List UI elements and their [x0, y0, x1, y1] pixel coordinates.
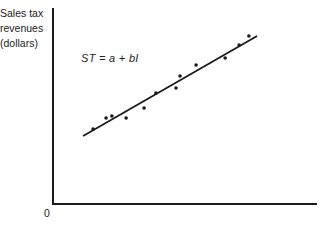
data-point: [142, 106, 146, 110]
data-point: [247, 34, 251, 38]
data-point: [154, 91, 158, 95]
data-point: [223, 56, 227, 60]
data-points: [91, 34, 250, 131]
data-point: [104, 116, 108, 120]
data-point: [110, 114, 114, 118]
data-point: [237, 43, 241, 47]
plot-area: [0, 0, 322, 228]
data-point: [91, 127, 95, 131]
data-point: [194, 63, 198, 67]
regression-line-segment: [83, 36, 257, 136]
data-point: [124, 116, 128, 120]
data-point: [174, 86, 178, 90]
data-point: [178, 74, 182, 78]
regression-line: [83, 36, 257, 136]
